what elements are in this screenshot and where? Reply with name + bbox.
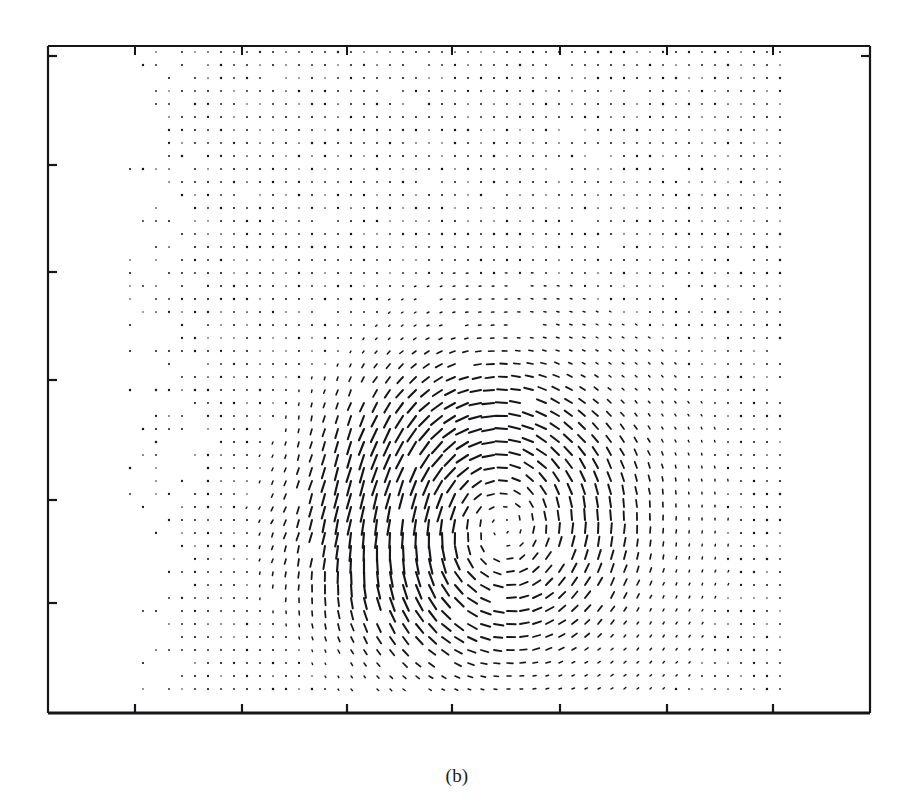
vector-dot — [285, 220, 287, 222]
vector-dot — [480, 259, 482, 261]
vector-dot — [779, 506, 781, 508]
vector-arrow — [455, 585, 463, 594]
vector-dot — [246, 311, 248, 313]
vector-dot — [363, 259, 365, 261]
vector-dot — [285, 402, 287, 404]
vector-arrow — [552, 387, 559, 390]
vector-dot — [350, 77, 352, 79]
vector-arrow — [533, 662, 538, 663]
vector-dot — [688, 233, 690, 235]
vector-arrow — [439, 338, 442, 340]
vector-dot — [714, 168, 716, 170]
vector-arrow — [520, 649, 527, 650]
vector-dot — [233, 246, 235, 248]
vector-arrow — [676, 570, 677, 572]
vector-arrow — [650, 661, 652, 663]
vector-dot — [675, 116, 677, 118]
vector-dot — [389, 129, 391, 131]
vector-arrow — [376, 338, 377, 339]
vector-dot — [740, 584, 742, 586]
vector-dot — [233, 298, 235, 300]
vector-arrow — [390, 676, 393, 678]
vector-dot — [194, 259, 196, 261]
vector-dot — [350, 129, 352, 131]
vector-arrow — [387, 351, 390, 354]
vector-dot — [779, 337, 781, 339]
vector-dot — [740, 402, 742, 404]
vector-arrow — [635, 376, 637, 378]
vector-arrow — [285, 559, 286, 564]
vector-arrow — [387, 364, 391, 368]
vector-dot — [597, 272, 599, 274]
vector-arrow — [622, 363, 624, 364]
vector-arrow — [442, 572, 448, 584]
vector-dot — [480, 77, 482, 79]
vector-dot — [155, 90, 157, 92]
vector-dot — [727, 324, 729, 326]
vector-dot — [220, 376, 222, 378]
vector-arrow — [416, 598, 423, 610]
vector-arrow — [702, 596, 703, 598]
vector-arrow — [650, 622, 651, 624]
vector-dot — [558, 129, 560, 131]
vector-dot — [532, 116, 534, 118]
vector-dot — [480, 64, 482, 66]
vector-arrow — [440, 312, 442, 313]
vector-arrow — [442, 546, 445, 560]
vector-arrow — [390, 637, 395, 644]
vector-dot — [246, 116, 248, 118]
vector-dot — [311, 181, 313, 183]
vector-arrow — [455, 572, 462, 582]
vector-arrow — [384, 416, 390, 428]
vector-arrow — [583, 324, 585, 325]
vector-dot — [259, 415, 261, 417]
vector-dot — [207, 402, 209, 404]
vector-arrow — [533, 689, 536, 690]
vector-dot — [740, 519, 742, 521]
vector-arrow — [373, 390, 377, 397]
vector-dot — [220, 688, 222, 690]
vector-arrow — [662, 388, 663, 390]
vector-arrow — [553, 472, 559, 481]
vector-arrow — [259, 520, 260, 522]
vector-arrow — [507, 558, 513, 559]
vector-dot — [337, 337, 339, 339]
vector-arrow — [335, 468, 338, 480]
vector-dot — [727, 389, 729, 391]
vector-arrow — [335, 455, 338, 466]
vector-arrow — [580, 387, 585, 390]
vector-dot — [688, 220, 690, 222]
vector-dot — [727, 428, 729, 430]
vector-dot — [493, 220, 495, 222]
vector-arrow — [347, 468, 352, 482]
vector-dot — [415, 194, 417, 196]
vector-dot — [285, 649, 287, 651]
vector-dot — [701, 142, 703, 144]
vector-dot — [519, 181, 521, 183]
vector-dot — [571, 116, 573, 118]
vector-dot — [155, 246, 157, 248]
vector-arrow — [663, 661, 664, 663]
vector-arrow — [689, 675, 690, 676]
vector-arrow — [546, 552, 551, 559]
vector-dot — [376, 272, 378, 274]
vector-arrow — [572, 550, 576, 559]
vector-arrow — [414, 312, 416, 313]
vector-arrow — [702, 636, 703, 637]
vector-dot — [233, 480, 235, 482]
vector-arrow — [584, 509, 585, 520]
vector-arrow — [416, 637, 423, 644]
vector-dot — [506, 90, 508, 92]
vector-dot — [324, 51, 326, 53]
vector-dot — [545, 142, 547, 144]
vector-dot — [623, 168, 625, 170]
vector-dot — [363, 64, 365, 66]
vector-dot — [376, 129, 378, 131]
vector-arrow — [624, 675, 626, 676]
vector-dot — [259, 428, 261, 430]
vector-dot — [545, 168, 547, 170]
vector-arrow — [338, 676, 339, 678]
vector-arrow — [309, 507, 312, 517]
vector-dot — [688, 324, 690, 326]
vector-dot — [454, 64, 456, 66]
